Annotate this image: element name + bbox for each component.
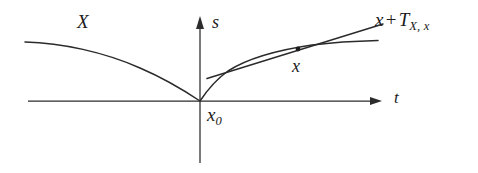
tangent-label-subscript: X, x xyxy=(409,19,429,33)
tangent-label-symbol: T xyxy=(399,9,410,30)
s-axis-arrowhead-icon xyxy=(196,16,204,29)
t-axis-label: t xyxy=(394,89,399,106)
tangent-point-label: x xyxy=(292,57,300,75)
curve-x xyxy=(25,41,378,102)
tangency-point-marker xyxy=(296,47,301,52)
t-axis xyxy=(28,97,382,105)
t-axis-arrowhead-icon xyxy=(370,97,382,105)
tangent-line-label: x+TX, x xyxy=(375,10,430,33)
s-axis-label: s xyxy=(212,13,219,31)
s-axis xyxy=(196,16,204,163)
math-figure: X s t x0 x x+TX, x xyxy=(0,0,478,173)
origin-point-subscript: 0 xyxy=(215,114,221,128)
origin-point-label: x0 xyxy=(207,105,222,128)
tangent-label-operator: + xyxy=(383,9,398,30)
curve-label-x: X xyxy=(77,12,89,31)
